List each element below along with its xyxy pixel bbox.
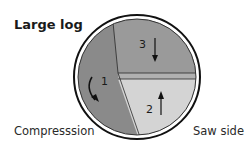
- compression-label: Compresssion: [14, 124, 95, 138]
- section-3-number: 3: [139, 38, 146, 51]
- saw-side-label: Saw side: [193, 124, 244, 138]
- section-2-number: 2: [146, 103, 153, 116]
- section-1-number: 1: [101, 75, 108, 88]
